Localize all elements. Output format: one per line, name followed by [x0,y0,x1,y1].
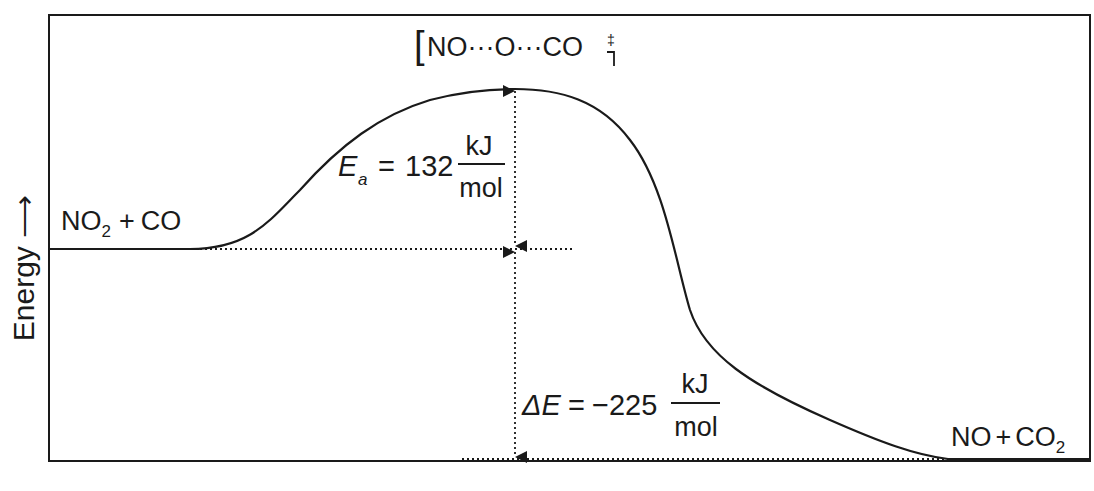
svg-text:Energy ⟶: Energy ⟶ [7,195,40,341]
svg-text:ΔE: ΔE [521,389,561,421]
energy-diagram: Energy ⟶ NO2+CO NO+CO2 [ NO···O···CO ‡ ] [0,0,1094,491]
svg-text:[: [ [414,24,425,66]
svg-text:132: 132 [405,150,453,182]
products-label: NO+CO2 [951,422,1065,457]
svg-text:=: = [568,389,585,421]
reactants-label: NO2+CO [61,206,181,241]
svg-text:a: a [358,170,367,189]
svg-text:E: E [338,150,358,182]
svg-text:kJ: kJ [466,131,493,161]
transition-state-label: [ NO···O···CO ‡ ] [414,24,616,66]
svg-text:mol: mol [674,412,718,442]
svg-text:−225: −225 [592,389,657,421]
delta-energy-label: ΔE = −225 kJ mol [521,369,720,442]
activation-energy-label: E a = 132 kJ mol [338,131,505,203]
svg-text:NO···O···CO: NO···O···CO [427,32,583,62]
svg-text:kJ: kJ [682,369,709,399]
y-axis-label: Energy ⟶ [7,195,40,341]
svg-text:mol: mol [459,173,503,203]
svg-text:=: = [378,150,395,182]
